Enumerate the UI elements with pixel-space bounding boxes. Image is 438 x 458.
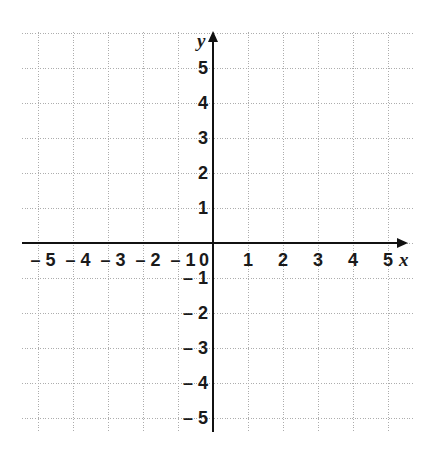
coordinate-plane: x y – 5– 4– 3– 2– 101234554321– 1– 2– 3–… (0, 0, 438, 458)
x-tick-label: – 5 (30, 251, 55, 269)
gridline-vertical (178, 32, 179, 432)
gridline-vertical (108, 32, 109, 432)
gridline-vertical (73, 32, 74, 432)
x-tick-label: 2 (278, 251, 288, 269)
x-tick-label: 0 (199, 251, 209, 269)
x-tick-label: 4 (348, 251, 358, 269)
gridline-vertical (388, 32, 389, 432)
gridline-vertical (38, 32, 39, 432)
y-tick-label: – 4 (183, 374, 208, 392)
gridline-horizontal (22, 348, 413, 349)
gridline-horizontal (22, 383, 413, 384)
gridline-horizontal (22, 68, 413, 69)
x-tick-label: 1 (243, 251, 253, 269)
x-axis-line (22, 242, 398, 244)
x-axis-arrow-icon (397, 238, 408, 248)
gridline-horizontal (22, 208, 413, 209)
gridline-vertical (143, 32, 144, 432)
y-axis-line (212, 41, 214, 432)
x-tick-label: – 4 (65, 251, 90, 269)
grid (22, 32, 413, 432)
x-tick-label: – 3 (100, 251, 125, 269)
gridline-vertical (248, 32, 249, 432)
x-tick-label: 3 (313, 251, 323, 269)
y-tick-label: 4 (198, 94, 208, 112)
x-axis-label: x (399, 250, 409, 269)
x-tick-label: 5 (383, 251, 393, 269)
x-tick-label: – 2 (135, 251, 160, 269)
gridline-horizontal (22, 313, 413, 314)
y-tick-label: 2 (198, 164, 208, 182)
gridline-horizontal (22, 173, 413, 174)
gridline-horizontal (22, 103, 413, 104)
y-tick-label: – 5 (183, 409, 208, 427)
y-tick-label: 3 (198, 129, 208, 147)
y-axis-arrow-icon (208, 31, 218, 42)
gridline-vertical (283, 32, 284, 432)
gridline-vertical (318, 32, 319, 432)
y-tick-label: – 2 (183, 304, 208, 322)
gridline-vertical (353, 32, 354, 432)
gridline-horizontal (22, 278, 413, 279)
gridline-horizontal (22, 138, 413, 139)
y-tick-label: – 1 (183, 269, 208, 287)
y-axis-label: y (197, 31, 205, 50)
gridline-horizontal (22, 33, 413, 34)
y-tick-label: – 3 (183, 339, 208, 357)
y-tick-label: 1 (198, 199, 208, 217)
gridline-horizontal (22, 418, 413, 419)
y-tick-label: 5 (198, 59, 208, 77)
x-tick-label: – 1 (170, 251, 195, 269)
